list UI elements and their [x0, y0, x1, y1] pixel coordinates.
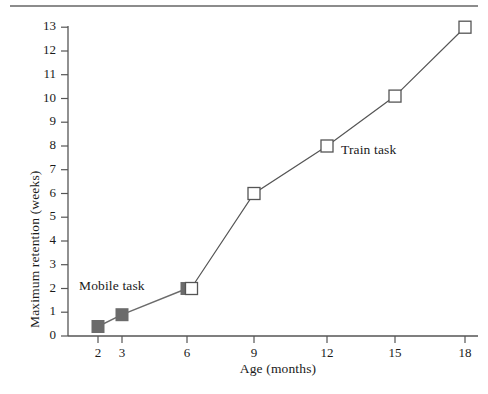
data-point-train-6	[186, 283, 198, 295]
x-tick-label-12: 12	[315, 345, 339, 361]
y-axis-ticks	[61, 27, 68, 336]
x-tick-label-9: 9	[242, 345, 266, 361]
data-point-mobile-3	[116, 308, 129, 321]
series-line-mobile-task	[98, 289, 187, 327]
y-axis-title: Maximum retention (weeks)	[27, 8, 43, 328]
x-tick-label-18: 18	[453, 345, 477, 361]
x-tick-label-3: 3	[110, 345, 134, 361]
series-markers-train-task	[186, 21, 472, 294]
x-tick-label-15: 15	[383, 345, 407, 361]
series-annotation-mobile-task: Mobile task	[79, 278, 145, 294]
y-tick-label-0: 0	[32, 327, 56, 343]
chart-plot-area	[0, 0, 488, 394]
data-point-train-9	[248, 188, 260, 200]
x-axis-ticks	[98, 336, 465, 343]
data-point-mobile-2	[92, 320, 105, 333]
x-axis-title: Age (months)	[0, 361, 488, 377]
x-tick-label-6: 6	[175, 345, 199, 361]
data-point-train-18	[459, 21, 471, 33]
series-annotation-train-task: Train task	[341, 142, 396, 158]
figure-container: 0 1 2 3 4 5 6 7 8 9 10 11 12 13 2 3 6 9 …	[0, 0, 488, 394]
x-tick-label-2: 2	[86, 345, 110, 361]
data-point-train-15	[389, 90, 401, 102]
data-point-train-12	[321, 140, 333, 152]
series-line-train-task	[191, 27, 465, 288]
